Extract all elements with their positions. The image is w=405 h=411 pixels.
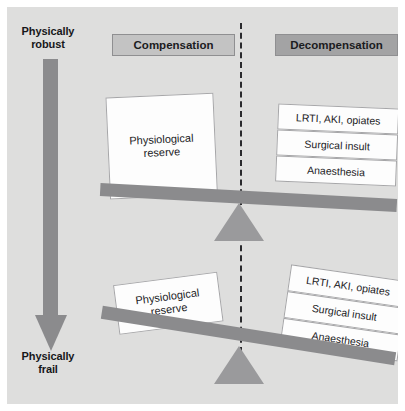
diagram-panel: Physically robust Physically frail Compe… (7, 7, 398, 404)
axis-label-frail-line1: Physically (7, 350, 91, 363)
header-decompensation: Decompensation (275, 34, 398, 56)
axis-label-robust-line1: Physically (7, 25, 91, 38)
axis-label-robust: Physically robust (7, 25, 91, 50)
arrow-shaft (43, 59, 58, 317)
frailty-gradient-arrow-icon (35, 59, 67, 351)
divider-dashed-top (240, 23, 242, 205)
stressor-card: Anaesthesia (275, 155, 397, 186)
axis-label-frail: Physically frail (7, 350, 91, 375)
fulcrum-robust (214, 203, 264, 241)
arrow-head (35, 315, 67, 351)
axis-label-robust-line2: robust (7, 38, 91, 51)
stressor-stack-robust: LRTI, AKI, opiates Surgical insult Anaes… (275, 104, 398, 187)
fulcrum-frail (214, 346, 264, 384)
axis-label-frail-line2: frail (7, 363, 91, 376)
header-compensation: Compensation (112, 34, 235, 56)
